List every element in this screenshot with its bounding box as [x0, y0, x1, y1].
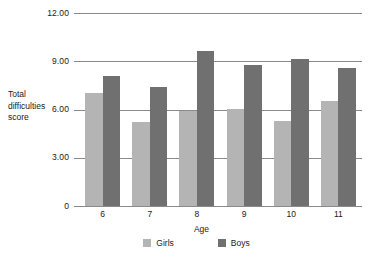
legend-entry-boys[interactable]: Boys	[218, 239, 250, 248]
x-tick-label-6: 6	[83, 210, 123, 219]
y-axis-title-line-3: score	[8, 112, 56, 124]
boys-swatch-icon	[218, 239, 226, 247]
x-tick-label-10: 10	[271, 210, 311, 219]
legend-label-girls: Girls	[156, 239, 173, 248]
x-tick-label-9: 9	[224, 210, 264, 219]
y-tick-label: 0	[64, 202, 69, 211]
x-tick-label-11: 11	[318, 210, 358, 219]
bar-boys-age-9	[244, 65, 262, 206]
bar-girls-age-7	[132, 122, 150, 206]
bar-girls-age-11	[321, 101, 339, 206]
y-tick-label: 12.00	[47, 9, 69, 18]
bar-girls-age-6	[85, 93, 103, 206]
bar-boys-age-6	[103, 76, 121, 206]
bars-layer	[79, 0, 362, 206]
chart-legend: Girls Boys	[0, 239, 371, 248]
x-tick-label-8: 8	[177, 210, 217, 219]
y-axis-title-line-1: Total	[8, 89, 56, 101]
x-axis-title: Age	[0, 224, 371, 234]
legend-label-boys: Boys	[231, 239, 250, 248]
y-axis-title-line-2: difficulties	[8, 101, 56, 113]
y-tick-label: 6.00	[52, 105, 69, 114]
bar-boys-age-11	[338, 68, 356, 206]
y-axis-title: Total difficulties score	[8, 89, 56, 124]
x-axis-line	[79, 206, 362, 207]
bar-girls-age-8	[179, 111, 197, 206]
y-tick-label: 3.00	[52, 153, 69, 162]
girls-swatch-icon	[143, 239, 151, 247]
x-tick-label-7: 7	[130, 210, 170, 219]
bar-chart: Total difficulties score 12.009.006.003.…	[0, 0, 371, 260]
y-tick-label: 9.00	[52, 57, 69, 66]
bar-girls-age-9	[227, 109, 245, 206]
legend-entry-girls[interactable]: Girls	[143, 239, 173, 248]
bar-boys-age-7	[150, 87, 168, 206]
bar-boys-age-10	[291, 59, 309, 206]
bar-girls-age-10	[274, 121, 292, 206]
bar-boys-age-8	[197, 51, 215, 206]
